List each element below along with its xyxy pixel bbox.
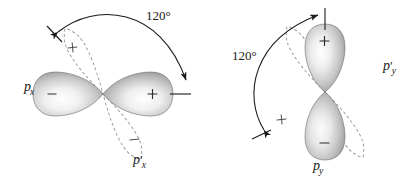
- px-prime-minus: [130, 139, 139, 140]
- label-px-prime: p′x: [133, 152, 146, 170]
- px-prime-axis-tick: [47, 26, 62, 42]
- py-lobe-positive: [305, 24, 345, 92]
- px-lobe-positive: [103, 72, 173, 116]
- px-lobe-negative: [33, 72, 103, 116]
- label-py-prime: p′y: [383, 58, 396, 76]
- px-prime-plus-v: [72, 43, 73, 52]
- label-px: px: [24, 79, 34, 97]
- py-lobe-negative: [305, 92, 345, 160]
- label-py-subscript: y: [319, 166, 323, 176]
- left-diagram-group: [33, 14, 191, 163]
- angle-label-left: 120°: [146, 8, 171, 24]
- angle-label-right: 120°: [232, 48, 257, 64]
- label-py-prime-subscript: y: [392, 66, 396, 76]
- orbital-rotation-figure: px p′x 120° py p′y 120°: [0, 0, 417, 183]
- label-py: py: [313, 158, 323, 176]
- label-px-prime-subscript: x: [142, 160, 146, 170]
- figure-svg: [0, 0, 417, 183]
- py-prime-sign-glyphs: [277, 115, 286, 124]
- right-diagram-group: [252, 8, 370, 162]
- py-prime-plus-v: [281, 115, 282, 124]
- py-prime-axis-tick: [252, 130, 271, 139]
- label-px-subscript: x: [30, 87, 34, 97]
